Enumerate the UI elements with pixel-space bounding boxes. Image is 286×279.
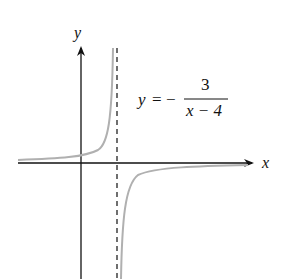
curve-left-branch	[18, 48, 113, 160]
svg-text:−: −	[166, 90, 176, 109]
x-axis-label: x	[261, 154, 269, 171]
equation-label: y = − 3 x − 4	[136, 75, 228, 120]
svg-text:x − 4: x − 4	[185, 101, 223, 120]
svg-text:=: =	[152, 90, 162, 109]
curve-right-branch	[121, 165, 248, 279]
graph: y x y = − 3 x − 4	[0, 0, 286, 279]
svg-text:3: 3	[201, 75, 210, 94]
svg-text:y: y	[136, 90, 146, 109]
y-axis-label: y	[72, 24, 82, 42]
